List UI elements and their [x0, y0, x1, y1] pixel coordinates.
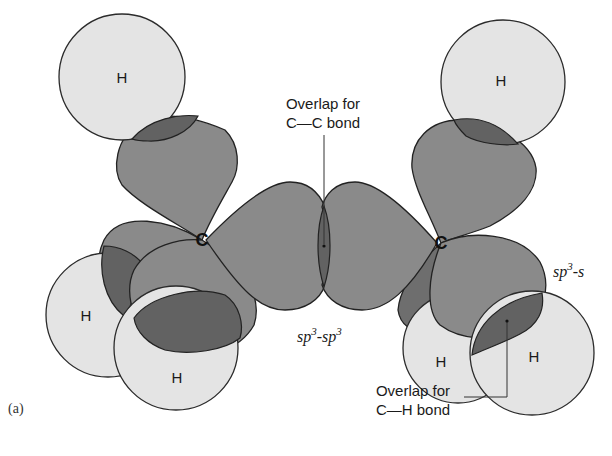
hydrogen-bottom-left-near: H — [114, 286, 241, 410]
carbon-left-label: C — [196, 230, 209, 250]
h-label: H — [172, 369, 183, 386]
hydrogen-bottom-right-near: H — [470, 291, 594, 415]
ch-overlap-line1: Overlap for — [376, 382, 450, 399]
hydrogen-top-left: H — [59, 14, 198, 141]
cc-leader-dot — [322, 244, 325, 247]
h-label: H — [529, 348, 540, 365]
sp3-s-label: sp3-s — [553, 260, 584, 281]
hydrogen-top-right: H — [441, 20, 565, 145]
h-label: H — [436, 353, 447, 370]
ch-leader-dot — [505, 319, 508, 322]
cc-overlap-line1: Overlap for — [286, 95, 360, 112]
panel-label: (a) — [8, 401, 24, 417]
h-label: H — [117, 69, 128, 86]
carbon-right-label: C — [435, 233, 448, 253]
cc-overlap-line2: C—C bond — [286, 114, 360, 131]
h-label: H — [496, 72, 507, 89]
sp3-sp3-label: sp3-sp3 — [297, 325, 342, 346]
ch-overlap-line2: C—H bond — [376, 401, 450, 418]
h-label: H — [81, 307, 92, 324]
ethane-orbital-diagram: H H H H H — [0, 0, 612, 456]
